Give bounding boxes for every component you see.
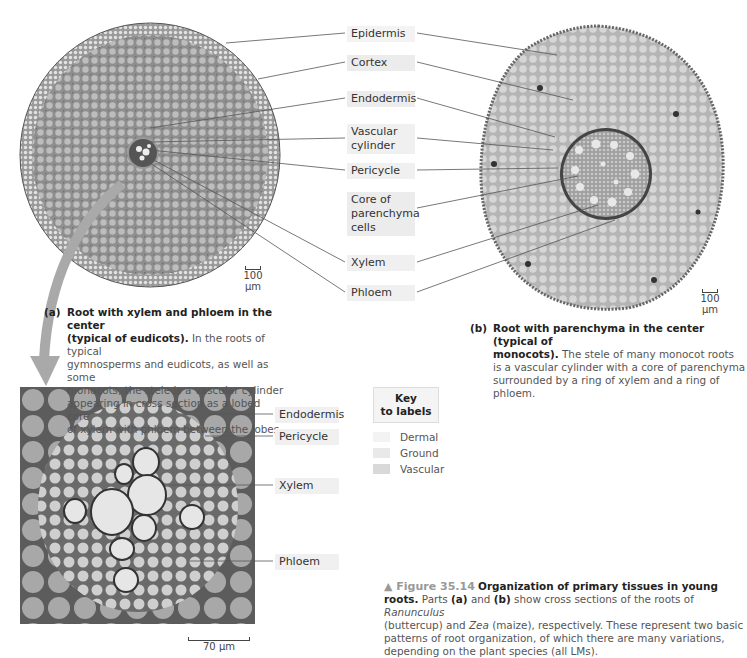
panel-b-text-2: is a vascular cylinder with a core of pa… <box>493 361 745 373</box>
micrograph-label-pericycle: Pericycle <box>275 429 339 445</box>
label-vascular-cylinder: Vascular cylinder <box>347 124 415 154</box>
panel-b-text-1: The stele of many monocot roots <box>562 348 734 360</box>
caption-part-b: (b) <box>494 593 511 605</box>
scale-label-a: 100 µm <box>238 270 268 292</box>
panel-b-title-1: Root with parenchyma in the center (typi… <box>493 322 704 347</box>
caption-text: and <box>471 593 491 605</box>
label-core-line2: parenchyma <box>351 207 411 221</box>
caption-part-a: (a) <box>451 593 468 605</box>
vascular-swatch <box>373 464 390 474</box>
micrograph-label-xylem: Xylem <box>275 478 339 494</box>
caption-text: patterns of root organization, of which … <box>384 632 725 644</box>
ground-swatch <box>373 448 390 458</box>
label-epidermis: Epidermis <box>347 26 415 42</box>
label-core-line1: Core of <box>351 193 411 207</box>
label-pericycle: Pericycle <box>347 163 415 179</box>
key-to-labels: Key to labels Dermal Ground Vascular <box>373 387 444 475</box>
label-endodermis: Endodermis <box>347 91 415 107</box>
scale-bar-a: 100 µm <box>238 266 268 292</box>
caption-text: depending on the plant species (all LMs)… <box>384 645 598 657</box>
panel-a-title-2: (typical of eudicots). <box>67 332 189 344</box>
label-cortex: Cortex <box>347 55 415 71</box>
label-xylem: Xylem <box>347 255 415 271</box>
figure-title-2: roots. <box>384 593 419 605</box>
label-core-line3: cells <box>351 221 411 235</box>
key-title-line1: Key <box>374 392 438 405</box>
key-item-dermal: Dermal <box>373 431 444 443</box>
panel-a-text-2: gymnosperms and eudicots, as well as som… <box>67 358 268 383</box>
caption-text: (buttercup) and <box>384 619 466 631</box>
label-vascular-line2: cylinder <box>351 139 411 153</box>
panel-a-text-5: of xylem with phloem between the lobes. <box>67 423 282 435</box>
caption-genus-ranunculus: Ranunculus <box>384 606 445 618</box>
label-vascular-line1: Vascular <box>351 125 411 139</box>
panel-a-caption: (a) Root with xylem and phloem in the ce… <box>44 306 284 436</box>
caption-text: Parts <box>422 593 448 605</box>
panel-a-text-4: appearing in cross section as a lobed co… <box>67 397 260 422</box>
micrograph-label-endodermis: Endodermis <box>275 407 339 423</box>
label-core-parenchyma: Core of parenchyma cells <box>347 192 415 236</box>
key-title-line2: to labels <box>374 405 438 418</box>
dermal-swatch <box>373 432 390 442</box>
figure-caption: ▲ Figure 35.14 Organization of primary t… <box>384 580 744 658</box>
scale-label-micrograph: 70 µm <box>188 641 250 652</box>
panel-a-title-1: Root with xylem and phloem in the center <box>67 306 272 331</box>
figure-number: ▲ Figure 35.14 <box>384 580 475 593</box>
scale-bar-b: 100 µm <box>692 289 728 315</box>
panel-a-text-3: monocots, the stele is a vascular cylind… <box>67 384 283 396</box>
key-item-ground: Ground <box>373 447 444 459</box>
micrograph-label-phloem: Phloem <box>275 554 339 570</box>
panel-b-tag: (b) <box>470 322 487 335</box>
panel-b-caption: (b) Root with parenchyma in the center (… <box>470 322 747 400</box>
panel-a-tag: (a) <box>44 306 61 319</box>
caption-text: (maize), respectively. These represent t… <box>492 619 743 631</box>
scale-bar-micrograph: 70 µm <box>188 637 250 652</box>
caption-genus-zea: Zea <box>469 619 489 631</box>
monocot-root-cross-section <box>478 24 730 312</box>
panel-b-title-2: monocots). <box>493 348 559 360</box>
key-item-vascular: Vascular <box>373 463 444 475</box>
figure-title: Organization of primary tissues in young <box>478 580 718 592</box>
scale-label-b: 100 µm <box>692 293 728 315</box>
label-phloem: Phloem <box>347 285 415 301</box>
panel-b-text-3: surrounded by a ring of xylem and a ring… <box>493 374 719 399</box>
key-title: Key to labels <box>373 387 439 423</box>
caption-text: show cross sections of the roots of <box>514 593 694 605</box>
